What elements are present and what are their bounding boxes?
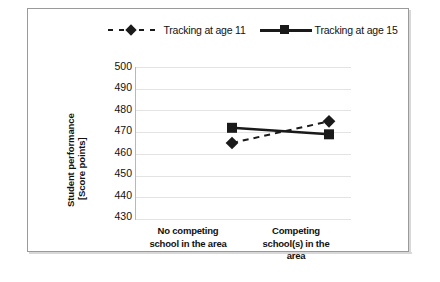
plot-area [136,67,351,219]
x-axis-label-no-competing: No competing school in the area [132,225,244,250]
y-axis-title-line-1: Student performance [65,113,76,207]
x-label-2-line-1: Competing [240,225,352,238]
y-tick-450: 450 [92,167,132,179]
chart-legend: Tracking at age 11 Tracking at age 15 [88,21,418,39]
data-point-square-1[interactable] [227,123,237,133]
y-tick-500: 500 [92,60,132,72]
x-label-2-line-2: school(s) in the [240,238,352,251]
gridline-430 [136,219,351,220]
y-axis-ticks: 500 490 480 470 460 450 440 430 [88,67,132,219]
y-tick-470: 470 [92,124,132,136]
frame-shadow-right [409,10,411,254]
chart-frame: Tracking at age 11 Tracking at age 15 St… [27,8,409,252]
y-axis-title-line-2: [Score points] [76,138,87,200]
legend-label-tracking-age-15: Tracking at age 15 [315,24,398,36]
y-tick-430: 430 [92,210,132,222]
dashed-diamond-marker-icon [108,24,160,36]
legend-label-tracking-age-11: Tracking at age 11 [163,24,245,36]
x-label-1-line-2: school in the area [132,238,244,251]
series-layer [136,67,351,219]
x-label-2-line-3: area [240,250,352,263]
y-tick-440: 440 [92,189,132,201]
y-tick-460: 460 [92,146,132,158]
legend-item-tracking-age-15[interactable]: Tracking at age 15 [260,24,398,36]
legend-item-tracking-age-11[interactable]: Tracking at age 11 [108,24,245,36]
data-point-diamond-2[interactable] [323,115,336,128]
y-tick-480: 480 [92,103,132,115]
solid-square-marker-icon [260,24,312,36]
y-axis-title: Student performance [Score points] [54,67,74,217]
y-tick-490: 490 [92,81,132,93]
x-axis-label-competing: Competing school(s) in the area [240,225,352,263]
data-point-square-2[interactable] [324,129,334,139]
series-line-2 [232,128,329,135]
data-point-diamond-1[interactable] [226,137,239,150]
x-label-1-line-1: No competing [132,225,244,238]
frame-shadow-bottom [29,252,412,254]
